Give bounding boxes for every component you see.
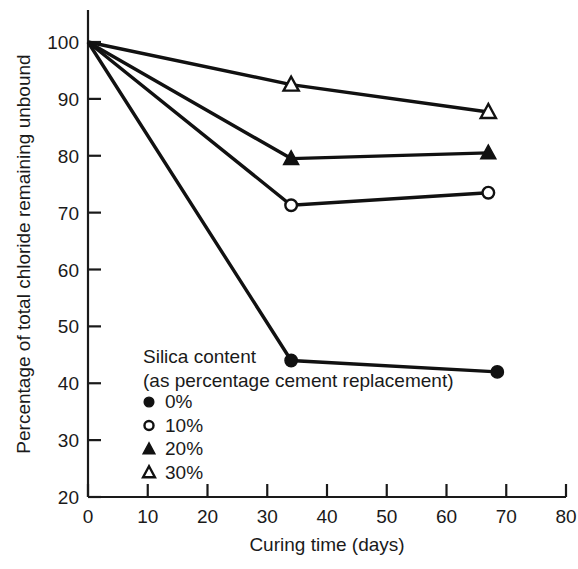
y-axis-title: Percentage of total chloride remaining u…	[13, 54, 34, 453]
x-tick-label: 70	[496, 506, 517, 527]
x-tick-label: 80	[555, 506, 576, 527]
marker-open-circle	[285, 199, 297, 211]
y-tick-label: 60	[58, 260, 79, 281]
x-tick-label: 50	[376, 506, 397, 527]
chart-canvas: 2030405060708090100 01020304050607080 Cu…	[0, 0, 578, 569]
legend-entries-group: 0%10%20%30%	[143, 391, 203, 483]
y-tick-label: 50	[58, 316, 79, 337]
series-markers-group	[284, 77, 504, 378]
x-tick-label: 0	[83, 506, 94, 527]
marker-open-circle	[483, 187, 495, 199]
x-tick-label: 40	[316, 506, 337, 527]
marker-open-triangle	[143, 466, 155, 477]
x-axis-title: Curing time (days)	[249, 534, 404, 555]
legend-label-10pct: 10%	[165, 415, 203, 436]
series-line-20pct	[88, 42, 488, 159]
legend-label-20pct: 20%	[165, 438, 203, 459]
y-tick-label: 30	[58, 430, 79, 451]
marker-filled-circle	[491, 366, 503, 378]
legend-label-0pct: 0%	[165, 391, 193, 412]
y-tick-label: 90	[58, 89, 79, 110]
x-tick-label: 30	[257, 506, 278, 527]
y-tick-label: 20	[58, 487, 79, 508]
y-tick-label: 70	[58, 203, 79, 224]
marker-open-circle	[144, 421, 153, 430]
legend-label-30pct: 30%	[165, 462, 203, 483]
chart-figure: 2030405060708090100 01020304050607080 Cu…	[0, 0, 578, 569]
marker-filled-triangle	[143, 443, 155, 454]
y-tick-label: 40	[58, 373, 79, 394]
x-tick-label: 60	[436, 506, 457, 527]
series-line-10pct	[88, 42, 488, 205]
y-tick-label: 80	[58, 146, 79, 167]
y-tick-label: 100	[47, 32, 79, 53]
marker-filled-circle	[285, 354, 297, 366]
x-tick-label: 10	[137, 506, 158, 527]
marker-filled-circle	[144, 397, 154, 407]
legend-title-line1: Silica content	[143, 346, 257, 367]
x-tick-label: 20	[197, 506, 218, 527]
legend-title-line2: (as percentage cement replacement)	[143, 370, 454, 391]
y-axis-ticks: 2030405060708090100	[47, 32, 101, 508]
x-axis-ticks: 01020304050607080	[83, 484, 577, 527]
